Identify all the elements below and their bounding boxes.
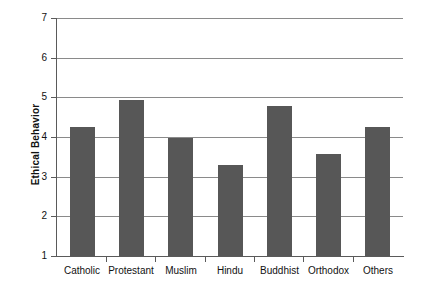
gridline-6 xyxy=(57,58,403,59)
x-tick-mark-5 xyxy=(303,257,304,262)
x-tick-label-buddhist: Buddhist xyxy=(253,265,306,276)
bar-others xyxy=(365,127,390,256)
y-tick-label-3: 3 xyxy=(27,172,47,182)
x-tick-mark-4 xyxy=(254,257,255,262)
bar-muslim xyxy=(168,138,193,256)
bar-orthodox xyxy=(316,154,341,256)
x-tick-label-protestant: Protestant xyxy=(104,265,158,276)
bar-hindu xyxy=(218,165,243,256)
x-tick-mark-6 xyxy=(353,257,354,262)
gridline-5 xyxy=(57,97,403,98)
y-tick-label-4: 4 xyxy=(27,132,47,142)
x-tick-mark-1 xyxy=(106,257,107,262)
plot-area xyxy=(57,18,403,256)
bar-chart: Ethical Behavior 7 6 5 4 3 2 1 Catholic … xyxy=(0,0,424,289)
x-tick-label-catholic: Catholic xyxy=(57,265,107,276)
y-tick-label-7: 7 xyxy=(27,13,47,23)
x-tick-mark-3 xyxy=(205,257,206,262)
x-tick-label-others: Others xyxy=(353,265,403,276)
x-tick-label-orthodox: Orthodox xyxy=(302,265,355,276)
gridline-4 xyxy=(57,137,403,138)
bar-buddhist xyxy=(267,106,292,256)
y-tick-label-2: 2 xyxy=(27,211,47,221)
x-axis-line xyxy=(56,256,404,257)
y-axis-title: Ethical Behavior xyxy=(24,0,46,289)
x-tick-label-hindu: Hindu xyxy=(205,265,255,276)
bar-protestant xyxy=(119,100,144,256)
bar-catholic xyxy=(70,127,95,256)
x-tick-mark-2 xyxy=(155,257,156,262)
y-tick-label-6: 6 xyxy=(27,53,47,63)
gridline-7 xyxy=(57,18,403,19)
y-tick-label-1: 1 xyxy=(27,251,47,261)
x-tick-label-muslim: Muslim xyxy=(156,265,206,276)
y-tick-label-5: 5 xyxy=(27,92,47,102)
